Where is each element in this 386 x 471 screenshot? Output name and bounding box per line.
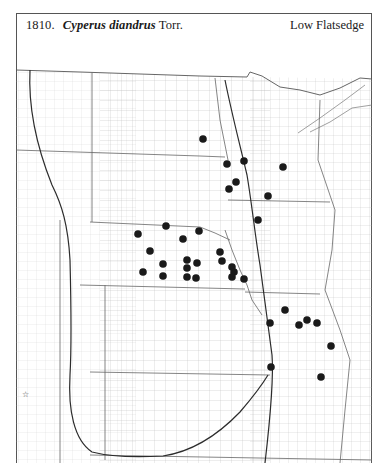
occurrence-dot bbox=[327, 342, 335, 350]
occurrence-dot bbox=[183, 273, 191, 281]
occurrence-dot bbox=[240, 275, 248, 283]
occurrence-dot bbox=[139, 268, 147, 276]
occurrence-dot bbox=[179, 235, 187, 243]
occurrence-dot bbox=[183, 264, 191, 272]
occurrence-dot bbox=[240, 157, 248, 165]
occurrence-dot bbox=[264, 192, 272, 200]
special-site-icon: ☆ bbox=[22, 390, 29, 399]
occurrence-dot bbox=[223, 160, 231, 168]
occurrence-dot bbox=[159, 260, 167, 268]
occurrence-dot bbox=[232, 178, 240, 186]
occurrence-dot bbox=[216, 248, 224, 256]
occurrence-dot bbox=[195, 227, 203, 235]
distribution-map: ☆ bbox=[0, 0, 386, 471]
occurrence-dot bbox=[183, 256, 191, 264]
occurrence-dot bbox=[317, 373, 325, 381]
occurrence-dot bbox=[159, 272, 167, 280]
occurrence-dot bbox=[254, 216, 262, 224]
occurrence-dot bbox=[267, 363, 275, 371]
occurrence-dot bbox=[162, 222, 170, 230]
occurrence-dot bbox=[266, 319, 274, 327]
occurrence-dot bbox=[192, 274, 200, 282]
occurrence-dot bbox=[295, 321, 303, 329]
occurrence-dot bbox=[199, 135, 207, 143]
occurrence-dot bbox=[303, 316, 311, 324]
occurrence-dot bbox=[313, 319, 321, 327]
occurrence-dot bbox=[228, 273, 236, 281]
occurrence-dot bbox=[193, 259, 201, 267]
county-grid bbox=[16, 70, 372, 463]
occurrence-dot bbox=[279, 163, 287, 171]
occurrence-dot bbox=[225, 185, 233, 193]
occurrence-dot bbox=[218, 257, 226, 265]
occurrence-dot bbox=[134, 230, 142, 238]
occurrence-dot bbox=[146, 247, 154, 255]
occurrence-dot bbox=[281, 306, 289, 314]
